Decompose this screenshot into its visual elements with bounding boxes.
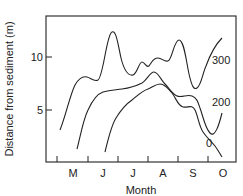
y-tick-label-10: 10 [31, 51, 43, 63]
series-label-200: 200 [212, 96, 230, 108]
x-tick-label-sep: S [189, 167, 196, 179]
series-label-300: 300 [212, 54, 230, 66]
y-axis-title: Distance from sediment (m) [3, 21, 15, 156]
series-label-0: 0 [206, 137, 212, 149]
x-tick-label-jul: J [130, 167, 136, 179]
curve-300 [60, 32, 222, 130]
chart: 10 5 M J J A S O Month Distance from sed… [0, 0, 243, 196]
x-tick-label-oct: O [219, 167, 228, 179]
x-axis-title: Month [126, 184, 157, 196]
x-tick-label-jun: J [100, 167, 106, 179]
x-tick-label-aug: A [159, 167, 167, 179]
y-tick-label-5: 5 [37, 104, 43, 116]
x-tick-label-may: M [68, 167, 77, 179]
